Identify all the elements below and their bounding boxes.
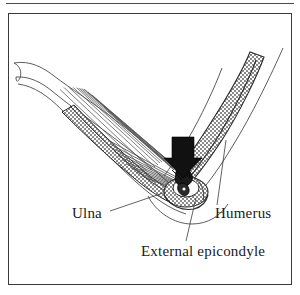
label-humerus: Humerus (215, 205, 271, 222)
label-layer: Ulna Humerus External epicondyle (0, 0, 300, 295)
label-external-epicondyle: External epicondyle (141, 243, 265, 260)
figure-root: Ulna Humerus External epicondyle (0, 0, 300, 295)
label-ulna: Ulna (72, 205, 102, 222)
